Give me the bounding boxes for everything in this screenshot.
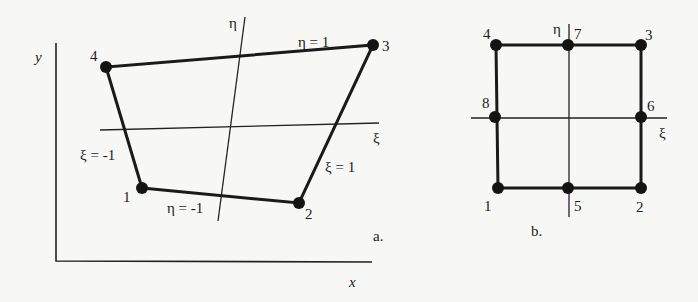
figure-b-parent-element: η ξ 1 2 3 4 5 6 7 8 b. <box>471 21 667 239</box>
x-axis-label: x <box>348 274 356 290</box>
node-3-label: 3 <box>645 27 653 43</box>
node-5-label: 5 <box>574 198 582 214</box>
edge-label-right: ξ = 1 <box>325 159 355 175</box>
node-6-marker <box>635 111 647 123</box>
eta-axis-label: η <box>553 21 561 37</box>
eta-axis-line <box>218 17 245 221</box>
node-4-label: 4 <box>90 48 98 64</box>
isoparametric-element-diagram: y x η ξ 1 2 3 4 η = 1 η = -1 ξ = -1 ξ = … <box>0 0 698 302</box>
xi-axis-label: ξ <box>373 130 380 146</box>
figure-b-caption: b. <box>531 223 542 239</box>
node-7-label: 7 <box>574 26 582 42</box>
eta-axis-label: η <box>229 15 237 31</box>
node-2-marker <box>293 197 305 209</box>
node-1-marker <box>492 182 504 194</box>
node-4-marker <box>100 61 112 73</box>
node-5-marker <box>562 182 574 194</box>
node-8-label: 8 <box>482 95 490 111</box>
edge-label-bottom: η = -1 <box>167 200 203 216</box>
edge-label-left: ξ = -1 <box>80 147 115 163</box>
figure-a-physical-element: y x η ξ 1 2 3 4 η = 1 η = -1 ξ = -1 ξ = … <box>33 15 390 290</box>
node-4-marker <box>490 39 502 51</box>
node-8-marker <box>489 111 501 123</box>
figure-a-caption: a. <box>373 228 383 244</box>
node-1-label: 1 <box>484 198 492 214</box>
y-axis-label: y <box>33 49 42 65</box>
node-7-marker <box>562 39 574 51</box>
xi-axis-label: ξ <box>659 125 666 141</box>
diagram-svg: y x η ξ 1 2 3 4 η = 1 η = -1 ξ = -1 ξ = … <box>0 0 698 302</box>
node-1-label: 1 <box>123 189 131 205</box>
node-2-label: 2 <box>636 199 644 215</box>
node-4-label: 4 <box>483 26 491 42</box>
node-2-marker <box>635 182 647 194</box>
node-2-label: 2 <box>305 206 313 222</box>
node-6-label: 6 <box>647 98 655 114</box>
node-1-marker <box>136 182 148 194</box>
edge-label-top: η = 1 <box>298 34 329 50</box>
node-3-label: 3 <box>382 38 390 54</box>
node-3-marker <box>367 39 379 51</box>
